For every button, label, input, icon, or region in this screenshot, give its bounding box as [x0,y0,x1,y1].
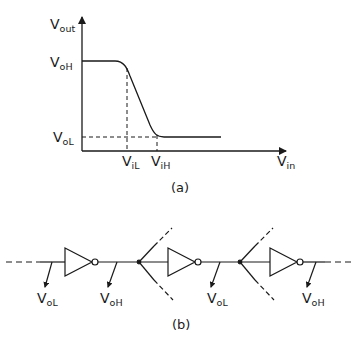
fanout-branch-1-up [139,246,154,262]
vil-threshold-label: ViL [122,153,140,171]
fanout-branch-1-down-dashed [154,280,173,300]
inverter-3-triangle-icon [270,248,297,276]
node-label-2: VoH [100,290,123,308]
figure-b-caption: (b) [172,317,190,332]
node-arrow-3 [211,262,220,287]
vih-threshold-label: ViH [151,153,170,171]
figure-a-caption: (a) [171,180,189,195]
voh-level-label: VoH [50,54,73,72]
inverter-3-bubble-icon [297,259,303,265]
fanout-branch-2-down-dashed [255,280,274,300]
transfer-characteristic-plot: Vout VoH VoL ViL ViH Vin (a) [50,16,295,195]
node-label-3: VoL [207,290,228,308]
y-axis-label: Vout [50,16,75,34]
diagram-canvas: Vout VoH VoL ViL ViH Vin (a) [0,0,361,349]
node-label-1: VoL [37,290,58,308]
fanout-branch-2-up [240,246,255,262]
inverter-2-triangle-icon [168,248,195,276]
inverter-1-triangle-icon [65,248,92,276]
inverter-2-bubble-icon [195,259,201,265]
node-arrow-4 [307,262,316,287]
fanout-branch-2-up-dashed [255,228,273,246]
transfer-curve [82,61,221,137]
node-arrow-2 [108,262,117,287]
fanout-branch-1-up-dashed [154,228,172,246]
node-label-4: VoH [302,290,325,308]
node-arrow-1 [45,262,52,287]
x-axis-label: Vin [277,153,295,171]
inverter-1-bubble-icon [92,259,98,265]
fanout-branch-2-down [240,262,255,280]
fanout-branch-1-down [139,262,154,280]
vol-level-label: VoL [53,129,74,147]
